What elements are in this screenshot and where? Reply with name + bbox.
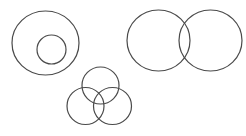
two-set-venn	[127, 10, 242, 71]
inner-circle	[37, 35, 66, 64]
nested-circles	[12, 11, 79, 75]
bottom-right-circle	[94, 88, 132, 125]
diagram-svg	[0, 0, 246, 136]
three-set-venn	[67, 67, 132, 125]
left-circle	[127, 10, 190, 71]
outer-circle	[12, 11, 79, 75]
diagram-canvas	[0, 0, 246, 136]
right-circle	[179, 10, 242, 71]
top-circle	[82, 67, 119, 104]
